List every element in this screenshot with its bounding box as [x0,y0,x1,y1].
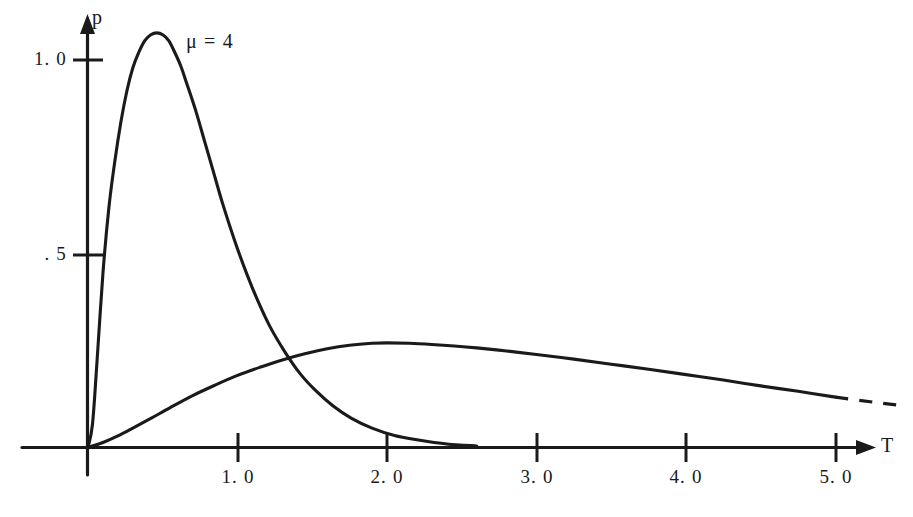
x-tick-label-1-0: 1. 0 [203,466,273,488]
mu-annotation-label: μ = 4 [186,30,234,53]
chart-canvas [0,0,913,517]
curve-broad-dashed-tail [836,397,903,406]
y-tick-label-0-5: . 5 [0,243,67,265]
x-tick-label-4-0: 4. 0 [651,466,721,488]
x-tick-label-5-0: 5. 0 [801,466,871,488]
figure-container: p T 1. 0 . 5 1. 0 2. 0 3. 0 4. 0 5. 0 μ … [0,0,913,517]
y-axis-label: p [92,6,103,29]
y-tick-label-1-0: 1. 0 [0,48,67,70]
data-curves [88,33,903,448]
x-axis-arrowhead [856,440,876,455]
x-tick-label-2-0: 2. 0 [352,466,422,488]
x-axis-label: T [881,434,894,457]
curve-mu-4 [88,33,477,448]
axes-group [22,14,876,475]
x-tick-label-3-0: 3. 0 [502,466,572,488]
curve-broad [88,343,836,448]
